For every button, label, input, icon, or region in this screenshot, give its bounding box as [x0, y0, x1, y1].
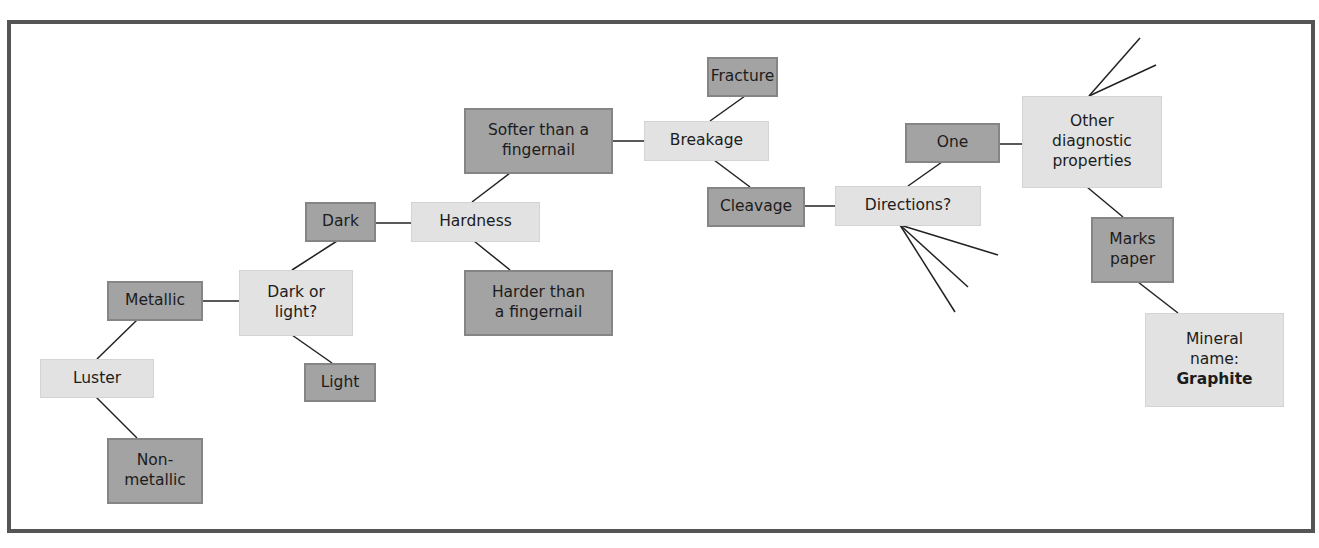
node-softer-than-fingernail: Softer than a fingernail: [464, 108, 613, 174]
node-dark: Dark: [305, 202, 376, 242]
edge-otherdiagnostic-branch-1: [1089, 38, 1140, 96]
mineral-name-result: Graphite: [1176, 370, 1252, 390]
node-light: Light: [304, 363, 376, 402]
node-marks-paper: Marks paper: [1091, 217, 1174, 283]
node-one: One: [905, 123, 1000, 163]
node-luster: Luster: [40, 359, 154, 398]
edge-luster-metallic: [97, 320, 137, 359]
node-cleavage: Cleavage: [707, 187, 805, 227]
node-fracture: Fracture: [707, 57, 778, 97]
node-metallic: Metallic: [107, 281, 203, 321]
edge-directions-branch-1: [900, 225, 998, 255]
node-harder-than-fingernail: Harder than a fingernail: [464, 270, 613, 336]
node-directions: Directions?: [835, 186, 981, 226]
edge-breakage-fracture: [710, 96, 745, 121]
edge-directions-one: [908, 162, 942, 186]
edge-luster-nonmetallic: [96, 397, 137, 438]
edge-otherdiagnostic-branch-2: [1089, 65, 1156, 96]
edge-breakage-cleavage: [714, 160, 750, 187]
node-mineral-name: Mineral name: Graphite: [1145, 313, 1284, 407]
edge-markspaper-mineralname: [1138, 282, 1178, 313]
node-dark-or-light: Dark or light?: [239, 270, 353, 336]
edge-darkorlight-light: [292, 335, 332, 363]
node-other-diagnostic-properties: Other diagnostic properties: [1022, 96, 1162, 188]
node-hardness: Hardness: [411, 202, 540, 242]
node-breakage: Breakage: [644, 121, 769, 161]
edge-hardness-harder: [474, 241, 510, 270]
edge-otherdiagnostic-markspaper: [1087, 187, 1123, 217]
node-nonmetallic: Non- metallic: [107, 438, 203, 504]
edge-hardness-softer: [472, 173, 510, 202]
mineral-name-label: Mineral name:: [1186, 330, 1243, 369]
edge-darkorlight-dark: [292, 241, 337, 270]
